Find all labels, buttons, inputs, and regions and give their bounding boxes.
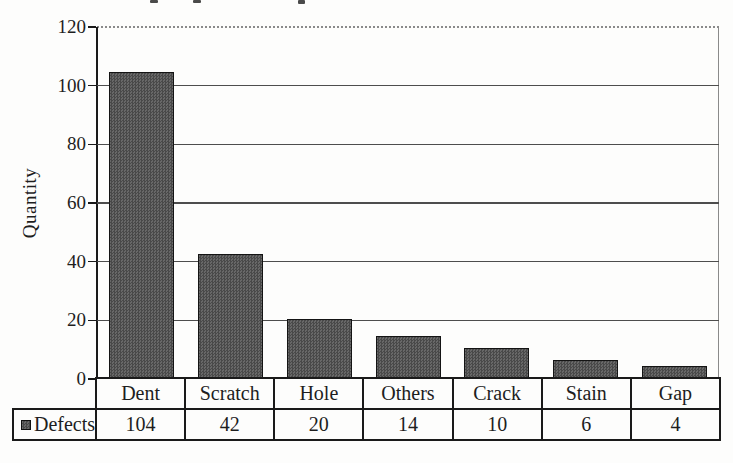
bar-others xyxy=(376,336,441,379)
value-cell-dent: 104 xyxy=(97,410,186,439)
y-tick-mark-100 xyxy=(88,85,96,87)
y-tick-mark-80 xyxy=(88,144,96,146)
y-tick-label-60: 60 xyxy=(38,192,86,214)
value-cell-crack: 10 xyxy=(454,410,543,439)
category-cell-dent: Dent xyxy=(97,379,186,408)
bar-crack xyxy=(464,348,529,379)
gridline-80 xyxy=(97,144,719,146)
y-tick-mark-60 xyxy=(88,202,96,204)
cropped-text-fragment xyxy=(193,0,201,3)
value-cell-gap: 4 xyxy=(632,410,719,439)
category-cell-others: Others xyxy=(364,379,453,408)
bar-chart: Quantity DentScratchHoleOthersCrackStain… xyxy=(0,0,733,463)
cropped-text-fragment xyxy=(298,0,305,4)
category-cell-gap: Gap xyxy=(632,379,719,408)
bar-dent xyxy=(109,72,174,379)
y-tick-label-80: 80 xyxy=(38,133,86,155)
category-cell-hole: Hole xyxy=(275,379,364,408)
y-tick-mark-120 xyxy=(88,26,96,28)
gridline-40 xyxy=(97,261,719,263)
y-tick-mark-0 xyxy=(88,378,96,380)
y-tick-label-0: 0 xyxy=(38,368,86,390)
data-table-row: Defects 1044220141064 xyxy=(12,408,721,441)
y-tick-label-100: 100 xyxy=(38,75,86,97)
category-row: DentScratchHoleOthersCrackStainGap xyxy=(95,377,721,408)
cropped-text-fragment xyxy=(150,0,158,3)
bar-hole xyxy=(287,319,352,379)
y-tick-label-20: 20 xyxy=(38,309,86,331)
gridline-20 xyxy=(97,320,719,322)
y-tick-mark-40 xyxy=(88,261,96,263)
value-cell-scratch: 42 xyxy=(186,410,275,439)
gridline-60 xyxy=(97,202,719,204)
value-cell-stain: 6 xyxy=(543,410,632,439)
legend-cell: Defects xyxy=(14,410,97,439)
y-tick-label-120: 120 xyxy=(38,16,86,38)
category-cell-scratch: Scratch xyxy=(186,379,275,408)
category-cell-stain: Stain xyxy=(543,379,632,408)
y-tick-label-40: 40 xyxy=(38,251,86,273)
bar-scratch xyxy=(198,254,263,379)
plot-area xyxy=(97,27,719,379)
value-cell-hole: 20 xyxy=(275,410,364,439)
category-cell-crack: Crack xyxy=(454,379,543,408)
y-tick-mark-20 xyxy=(88,320,96,322)
legend-series-label: Defects xyxy=(34,413,95,436)
value-cell-others: 14 xyxy=(364,410,453,439)
gridline-100 xyxy=(97,85,719,87)
legend-swatch-icon xyxy=(21,420,31,430)
